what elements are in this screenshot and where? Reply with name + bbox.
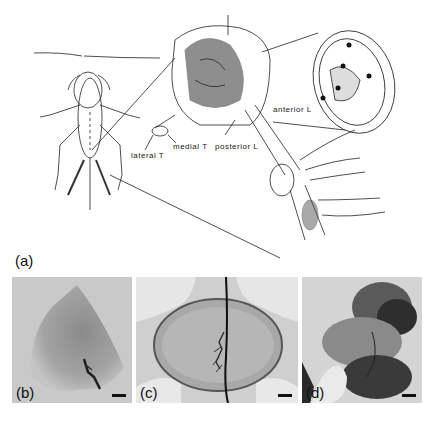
micrograph-c-image <box>136 277 298 403</box>
label-posterior-l: posterior L <box>215 142 258 151</box>
panel-d-micrograph: (d) <box>302 277 422 403</box>
panel-a-illustration: lateral T medial T posterior L anterior … <box>0 0 433 290</box>
scale-bar-d <box>402 394 416 397</box>
scale-bar-c <box>278 394 292 397</box>
panel-a-letter: (a) <box>15 252 33 269</box>
scale-bar-b <box>112 394 126 397</box>
panel-c-letter: (c) <box>140 384 158 401</box>
label-lateral-t: lateral T <box>131 151 164 160</box>
panel-b-micrograph: (b) <box>12 277 132 403</box>
label-medial-t: medial T <box>173 142 208 151</box>
panel-c-micrograph: (c) <box>136 277 298 403</box>
panel-d-letter: (d) <box>306 384 324 401</box>
label-anterior-l: anterior L <box>273 105 312 114</box>
panel-b-letter: (b) <box>16 384 34 401</box>
